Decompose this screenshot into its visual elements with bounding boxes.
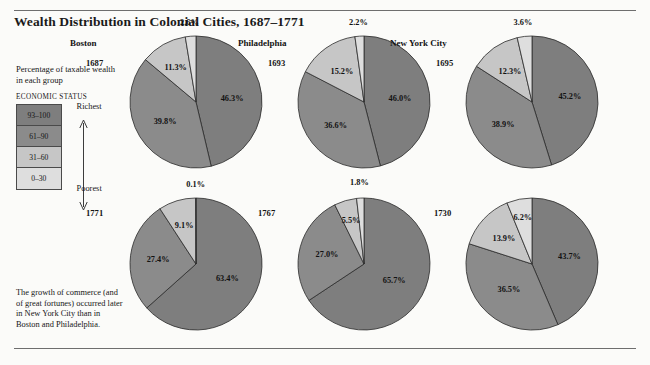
page-title: Wealth Distribution in Colonial Cities, … (14, 14, 305, 30)
bottom-divider (14, 348, 636, 349)
legend-swatch-label: 0–30 (31, 174, 46, 183)
legend-swatch-4: 0–30 (17, 168, 61, 189)
pie-year-label: 1771 (86, 208, 103, 218)
pie-graphic: 45.2%38.9%12.3%3.6% (464, 34, 600, 170)
legend-swatch-label: 93–100 (27, 111, 50, 120)
slice-percentage-label: 36.5% (497, 285, 520, 294)
slice-percentage-label: 63.4% (216, 274, 239, 283)
slice-percentage-label: 13.9% (492, 234, 515, 243)
footnote-text: The growth of commerce (and of great for… (16, 288, 124, 330)
slice-percentage-label: 36.6% (324, 121, 347, 130)
slice-percentage-label: 46.3% (221, 94, 244, 103)
pie-year-label: 1687 (86, 58, 103, 68)
pie-graphic: 46.0%36.6%15.2%2.2% (296, 34, 432, 170)
slice-percentage-label: 38.9% (492, 120, 515, 129)
slice-percentage-label: 3.6% (514, 18, 533, 27)
slice-percentage-label: 2.6% (180, 18, 199, 27)
legend: Percentage of taxable wealth in each gro… (16, 64, 128, 190)
legend-swatch-3: 31–60 (17, 147, 61, 168)
pie-chart: 65.7%27.0%5.5%1.8%1767 (296, 196, 432, 332)
slice-percentage-label: 27.0% (316, 250, 339, 259)
pie-chart: 43.7%36.5%13.9%6.2%1730 (464, 196, 600, 332)
pie-chart: 46.0%36.6%15.2%2.2%Philadelphia1693 (296, 34, 432, 170)
slice-percentage-label: 65.7% (383, 276, 406, 285)
slice-percentage-label: 12.3% (499, 67, 522, 76)
legend-caption: Percentage of taxable wealth in each gro… (16, 64, 120, 86)
legend-scale: Richest Poorest (67, 104, 128, 190)
legend-swatch-label: 31–60 (29, 153, 48, 162)
pie-year-label: 1695 (436, 58, 453, 68)
slice-percentage-label: 46.0% (389, 94, 412, 103)
pie-city-label: Boston (70, 38, 97, 48)
slice-percentage-label: 1.8% (350, 178, 369, 187)
legend-swatch-label: 61–90 (29, 132, 48, 141)
pie-graphic: 63.4%27.4%9.1%0.1% (128, 196, 264, 332)
pie-chart: 45.2%38.9%12.3%3.6%New York City1695 (464, 34, 600, 170)
chart-page: Wealth Distribution in Colonial Cities, … (0, 0, 650, 365)
top-divider (14, 10, 636, 11)
slice-percentage-label: 6.2% (513, 213, 532, 222)
pie-year-label: 1693 (268, 58, 285, 68)
legend-swatch-list: 93–10061–9031–600–30 (16, 104, 62, 190)
legend-swatch-1: 93–100 (17, 105, 61, 126)
pie-chart: 46.3%39.8%11.3%2.6%Boston1687 (128, 34, 264, 170)
legend-heading: ECONOMIC STATUS (16, 93, 128, 101)
pie-graphic: 43.7%36.5%13.9%6.2% (464, 196, 600, 332)
pie-graphic: 46.3%39.8%11.3%2.6% (128, 34, 264, 170)
pie-year-label: 1730 (434, 208, 451, 218)
slice-percentage-label: 2.2% (349, 18, 368, 27)
slice-percentage-label: 39.8% (154, 117, 177, 126)
pie-graphic: 65.7%27.0%5.5%1.8% (296, 196, 432, 332)
slice-percentage-label: 15.2% (330, 67, 353, 76)
slice-percentage-label: 0.1% (186, 180, 205, 189)
legend-swatch-2: 61–90 (17, 126, 61, 147)
pie-city-label: New York City (390, 38, 447, 48)
slice-percentage-label: 11.3% (165, 63, 187, 72)
scale-label-richest: Richest (77, 102, 102, 111)
pie-city-label: Philadelphia (238, 38, 287, 48)
slice-percentage-label: 43.7% (558, 252, 581, 261)
pie-chart: 63.4%27.4%9.1%0.1%1771 (128, 196, 264, 332)
slice-percentage-label: 45.2% (558, 92, 581, 101)
pie-year-label: 1767 (258, 208, 275, 218)
scale-label-poorest: Poorest (77, 184, 102, 193)
slice-percentage-label: 9.1% (175, 221, 194, 230)
double-arrow-icon (78, 115, 89, 215)
slice-percentage-label: 27.4% (147, 255, 170, 264)
slice-percentage-label: 5.5% (342, 216, 361, 225)
